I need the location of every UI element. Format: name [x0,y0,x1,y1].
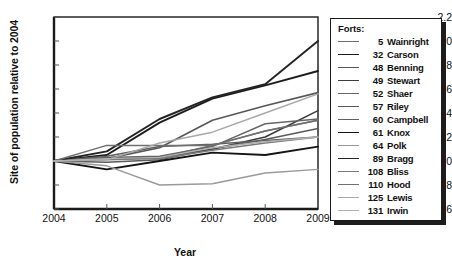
series-line [54,41,318,161]
legend-fort-name: Hood [387,179,410,190]
legend-item[interactable]: 57Riley [337,100,441,113]
legend-fort-number: 110 [363,179,383,190]
legend-item[interactable]: 64Polk [337,139,441,152]
legend-fort-number: 48 [363,62,383,73]
legend-line-swatch [338,145,359,146]
legend-fort-name: Bragg [387,153,413,164]
legend-fort-name: Bliss [387,166,409,177]
legend-title: Forts: [338,23,441,34]
legend-line-swatch [338,171,359,172]
legend-line-swatch [338,93,359,94]
series-line [54,71,318,161]
legend-fort-name: Lewis [387,192,412,203]
legend-line-swatch [338,41,359,42]
legend-entries: 5Wainright32Carson48Benning49Stewart52Sh… [337,35,441,217]
legend-fort-name: Shaer [387,88,412,99]
legend-item[interactable]: 125Lewis [337,191,441,204]
legend-fort-number: 5 [363,36,383,47]
legend: Forts: 5Wainright32Carson48Benning49Stew… [330,18,442,221]
legend-fort-number: 108 [363,166,383,177]
legend-item[interactable]: 60Campbell [337,113,441,126]
legend-item[interactable]: 108Bliss [337,165,441,178]
legend-line-swatch [338,210,359,211]
legend-item[interactable]: 49Stewart [337,74,441,87]
legend-fort-number: 131 [363,205,383,216]
legend-item[interactable]: 5Wainright [337,35,441,48]
legend-line-swatch [338,80,359,81]
legend-fort-number: 125 [363,192,383,203]
legend-item[interactable]: 48Benning [337,61,441,74]
legend-fort-name: Riley [387,101,409,112]
legend-fort-name: Knox [387,127,410,138]
legend-fort-number: 57 [363,101,383,112]
legend-fort-number: 49 [363,75,383,86]
legend-line-swatch [338,158,359,159]
legend-fort-number: 52 [363,88,383,99]
legend-item[interactable]: 89Bragg [337,152,441,165]
legend-line-swatch [338,67,359,68]
legend-line-swatch [338,132,359,133]
legend-line-swatch [338,54,359,55]
legend-fort-name: Wainright [387,36,429,47]
legend-fort-number: 64 [363,140,383,151]
legend-item[interactable]: 110Hood [337,178,441,191]
legend-fort-name: Irwin [387,205,408,216]
legend-fort-number: 60 [363,114,383,125]
legend-line-swatch [338,184,359,185]
series-line [54,161,318,185]
chart-figure: Site of population relative to 2004 Year… [0,0,452,265]
legend-item[interactable]: 52Shaer [337,87,441,100]
legend-fort-name: Polk [387,140,406,151]
legend-fort-name: Benning [387,62,424,73]
legend-item[interactable]: 131Irwin [337,204,441,217]
legend-fort-name: Carson [387,49,419,60]
legend-line-swatch [338,197,359,198]
legend-fort-name: Campbell [387,114,428,125]
legend-fort-number: 61 [363,127,383,138]
legend-fort-name: Stewart [387,75,420,86]
legend-fort-number: 89 [363,153,383,164]
legend-line-swatch [338,119,359,120]
legend-item[interactable]: 32Carson [337,48,441,61]
legend-line-swatch [338,106,359,107]
legend-item[interactable]: 61Knox [337,126,441,139]
legend-fort-number: 32 [363,49,383,60]
